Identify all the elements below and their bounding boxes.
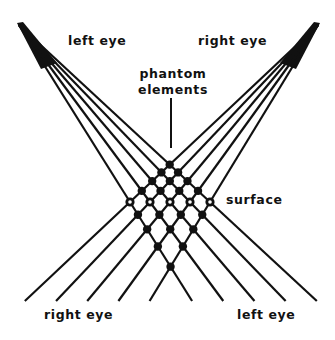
phantom-element xyxy=(166,225,174,233)
phantom-element xyxy=(156,187,164,195)
surface-point-hole xyxy=(168,200,172,204)
phantom-element xyxy=(157,168,165,176)
phantom-element xyxy=(148,177,156,185)
phantom-element xyxy=(155,210,163,218)
phantom-element xyxy=(166,262,174,270)
stereo-diagram: left eye right eye phantom elements surf… xyxy=(0,0,335,340)
surface-point-hole xyxy=(188,200,192,204)
label-phantom-line1: phantom xyxy=(131,66,215,82)
label-phantom-line2: elements xyxy=(131,82,215,98)
label-phantom-elements: phantom elements xyxy=(131,66,215,98)
label-top-left-eye: left eye xyxy=(68,33,126,48)
phantom-element xyxy=(143,225,151,233)
phantom-element xyxy=(174,168,182,176)
phantom-element xyxy=(198,210,206,218)
surface-point-hole xyxy=(148,200,152,204)
phantom-element xyxy=(165,160,173,168)
phantom-element xyxy=(138,187,146,195)
phantom-element xyxy=(189,225,197,233)
phantom-element xyxy=(177,210,185,218)
label-bottom-left-eye: left eye xyxy=(237,307,295,322)
phantom-element xyxy=(179,242,187,250)
phantom-element xyxy=(166,177,174,185)
phantom-element xyxy=(183,177,191,185)
phantom-element xyxy=(134,210,142,218)
ray-lattice xyxy=(0,0,335,340)
phantom-element xyxy=(154,242,162,250)
phantom-element xyxy=(194,187,202,195)
label-top-right-eye: right eye xyxy=(198,33,267,48)
surface-point-hole xyxy=(128,200,132,204)
surface-point-hole xyxy=(208,200,212,204)
label-bottom-right-eye: right eye xyxy=(44,307,113,322)
phantom-element xyxy=(175,187,183,195)
label-surface: surface xyxy=(226,192,282,207)
